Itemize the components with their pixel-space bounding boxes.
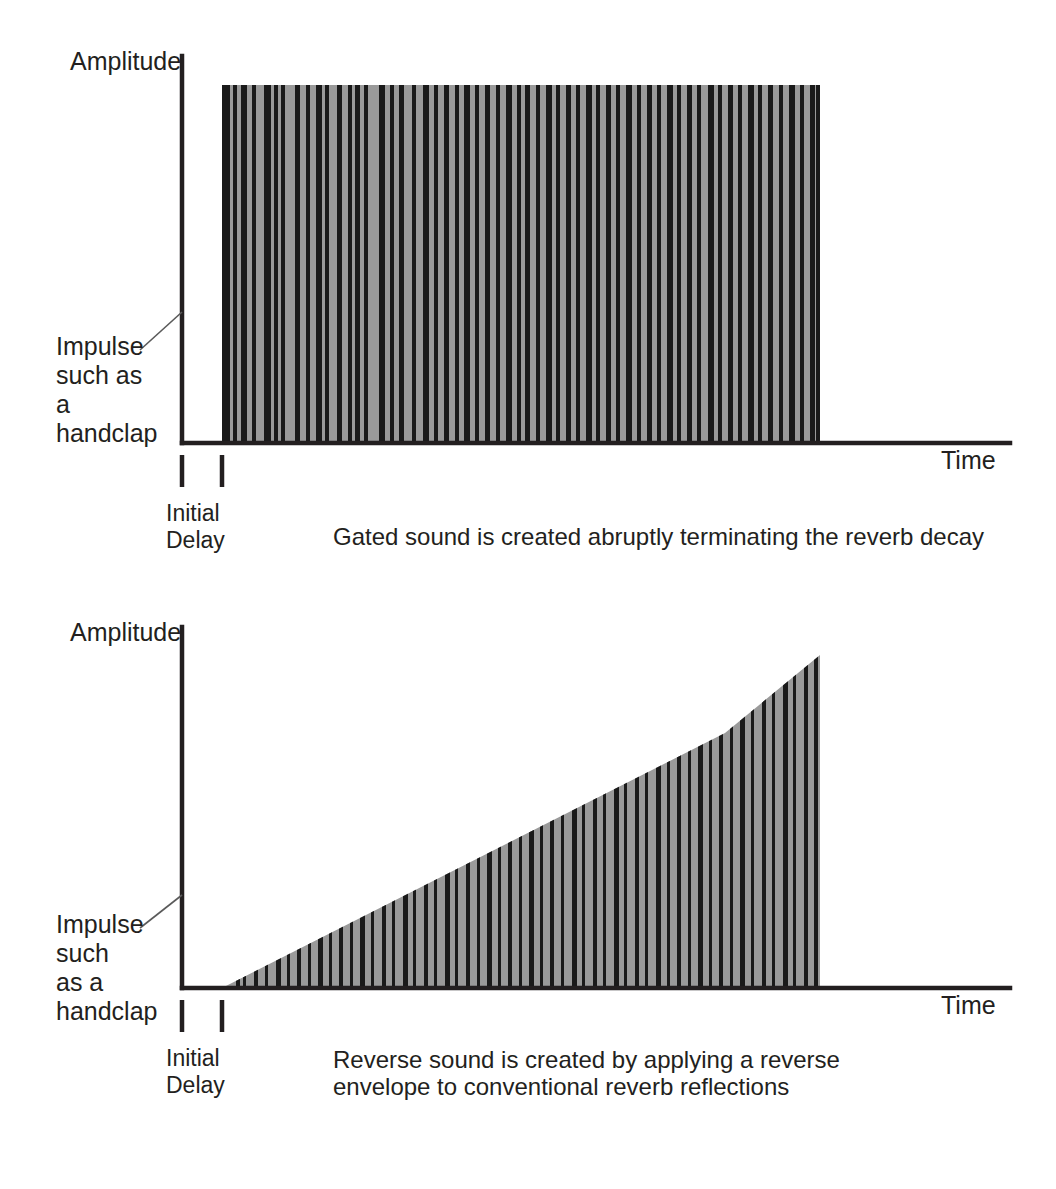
initial-delay-label-gated: Initial Delay xyxy=(166,500,225,553)
impulse-annotation-line-4: handclap xyxy=(56,997,157,1025)
impulse-annotation-line-3: a xyxy=(56,390,70,418)
impulse-annotation-line-3: as a xyxy=(56,968,103,996)
chart-gated-reverb: Amplitude xyxy=(56,47,1010,553)
reverb-envelope-diagram: Amplitude xyxy=(0,0,1056,1189)
impulse-leader-line-reverse xyxy=(140,895,182,928)
y-axis-label-reverse: Amplitude xyxy=(70,618,181,646)
impulse-annotation-line-2: such as xyxy=(56,361,142,389)
envelope-area-reverse xyxy=(222,650,822,990)
caption-reverse: Reverse sound is created by applying a r… xyxy=(333,1046,840,1100)
impulse-annotation-gated: Impulse such as a handclap xyxy=(56,332,157,447)
initial-delay-label-reverse: Initial Delay xyxy=(166,1045,225,1098)
x-axis-label-reverse: Time xyxy=(941,991,996,1019)
impulse-annotation-line-1: Impulse xyxy=(56,332,144,360)
initial-delay-line-1: Initial xyxy=(166,500,220,526)
caption-reverse-line-1: Reverse sound is created by applying a r… xyxy=(333,1046,840,1073)
impulse-annotation-line-4: handclap xyxy=(56,419,157,447)
initial-delay-ticks-reverse xyxy=(182,1000,222,1032)
impulse-annotation-line-2: such xyxy=(56,939,109,967)
chart-reverse-reverb: Amplitude xyxy=(56,618,1010,1100)
impulse-annotation-reverse: Impulse such as a handclap xyxy=(56,910,157,1025)
initial-delay-line-1: Initial xyxy=(166,1045,220,1071)
initial-delay-line-2: Delay xyxy=(166,527,225,553)
impulse-annotation-line-1: Impulse xyxy=(56,910,144,938)
envelope-area-gated xyxy=(222,85,820,443)
caption-reverse-line-2: envelope to conventional reverb reflecti… xyxy=(333,1073,789,1100)
initial-delay-line-2: Delay xyxy=(166,1072,225,1098)
caption-gated: Gated sound is created abruptly terminat… xyxy=(333,523,984,550)
impulse-leader-line-gated xyxy=(140,312,182,350)
initial-delay-ticks-gated xyxy=(182,455,222,487)
y-axis-label-gated: Amplitude xyxy=(70,47,181,75)
x-axis-label-gated: Time xyxy=(941,446,996,474)
